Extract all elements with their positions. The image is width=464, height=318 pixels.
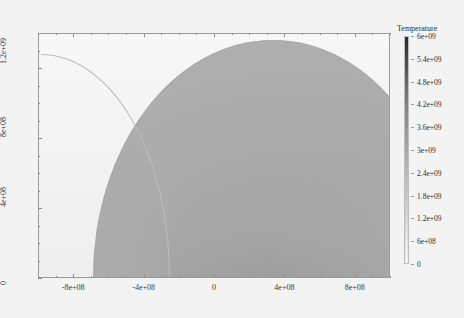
- colorbar-tick-label: 4.2e+09: [417, 100, 441, 109]
- colorbar-tick: [411, 218, 414, 219]
- colorbar-body: 6e+095.4e+094.8e+094.2e+093.6e+093e+092.…: [398, 36, 462, 264]
- y-tick-label: 8e+08: [0, 117, 8, 137]
- colorbar-tick: [411, 196, 414, 197]
- x-tick-label: 8e+08: [345, 283, 365, 292]
- colorbar-tick-label: 3.6e+09: [417, 123, 441, 132]
- figure-canvas: -8e+08-4e+0804e+088e+08 04e+088e+081.2e+…: [0, 0, 464, 318]
- x-tick-label: -8e+08: [62, 283, 85, 292]
- colorbar-tick-label: 4.8e+09: [417, 77, 441, 86]
- colorbar-tick: [411, 59, 414, 60]
- y-tick-label: 4e+08: [0, 187, 8, 207]
- colorbar-tick-label: 6e+09: [417, 32, 436, 41]
- colorbar-tick: [411, 241, 414, 242]
- plot-area[interactable]: [38, 33, 390, 278]
- colorbar-tick-label: 1.8e+09: [417, 191, 441, 200]
- colorbar-tick: [411, 150, 414, 151]
- y-tick-label: 1.2e+09: [0, 38, 8, 64]
- x-tick-label: 0: [212, 283, 216, 292]
- x-tick-minor: [390, 276, 391, 278]
- x-tick-label: 4e+08: [274, 283, 294, 292]
- colorbar-tick: [411, 173, 414, 174]
- colorbar-tick: [411, 36, 414, 37]
- colorbar-legend[interactable]: Temperature 6e+095.4e+094.8e+094.2e+093.…: [398, 24, 462, 264]
- colorbar-tick-label: 6e+08: [417, 237, 436, 246]
- colorbar-gradient[interactable]: [404, 36, 409, 264]
- colorbar-tick-label: 1.2e+09: [417, 214, 441, 223]
- colorbar-tick: [411, 127, 414, 128]
- colorbar-tick: [411, 104, 414, 105]
- y-tick-major: [38, 278, 42, 279]
- colorbar-tick: [411, 264, 414, 265]
- colorbar-tick-label: 5.4e+09: [417, 54, 441, 63]
- x-tick-minor: [390, 33, 391, 35]
- colorbar-tick: [411, 82, 414, 83]
- x-tick-label: -4e+08: [132, 283, 155, 292]
- colorbar-tick-label: 3e+09: [417, 146, 436, 155]
- colorbar-tick-label: 2.4e+09: [417, 168, 441, 177]
- y-tick-label: 0: [0, 281, 8, 285]
- colorbar-tick-label: 0: [417, 260, 421, 269]
